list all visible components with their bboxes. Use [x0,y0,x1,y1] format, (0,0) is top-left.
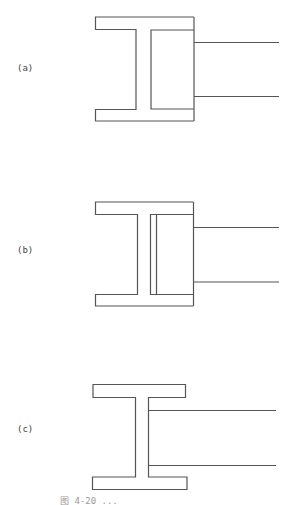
panel-b-label: (b) [17,245,33,255]
figure-canvas: (a) (b) (c) 图 4-20 ... [0,0,296,505]
panel-a-left-outline [96,17,195,121]
panel-c-drawing [93,385,277,490]
panel-c-label: (c) [17,424,33,434]
panel-a-web-right [151,30,194,109]
panel-a-drawing [96,17,280,121]
panel-c-i-section [93,385,188,490]
figure-caption: 图 4-20 ... [60,496,118,505]
panel-a-label: (a) [17,63,33,73]
panel-b-left-outline [96,202,194,306]
panel-b-drawing [96,202,280,306]
